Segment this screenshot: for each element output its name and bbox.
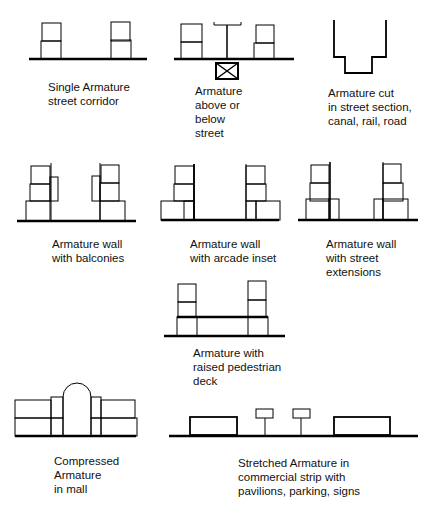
- cut-armature-drawing: [334, 20, 386, 73]
- above-below-armature-drawing: [174, 22, 294, 79]
- extensions-armature-drawing: [298, 162, 418, 220]
- caption-cut-armature: Armature cut in street section, canal, r…: [328, 86, 412, 128]
- caption-deck-armature: Armature with raised pedestrian deck: [193, 346, 281, 388]
- caption-balconies-armature: Armature wall with balconies: [52, 237, 124, 265]
- caption-extensions-armature: Armature wall with street extensions: [326, 237, 396, 279]
- single-armature-drawing: [29, 22, 147, 59]
- caption-above-below-armature: Armature above or below street: [195, 84, 242, 140]
- caption-arcade-armature: Armature wall with arcade inset: [190, 237, 276, 265]
- caption-mall-armature: Compressed Armature in mall: [54, 454, 119, 496]
- deck-armature-drawing: [164, 281, 285, 336]
- strip-armature-drawing: [169, 409, 418, 436]
- balconies-armature-drawing: [17, 163, 136, 221]
- caption-strip-armature: Stretched Armature in commercial strip w…: [238, 456, 360, 498]
- caption-single-armature: Single Armature street corridor: [48, 80, 130, 108]
- arcade-armature-drawing: [161, 164, 280, 220]
- mall-armature-drawing: [15, 383, 137, 436]
